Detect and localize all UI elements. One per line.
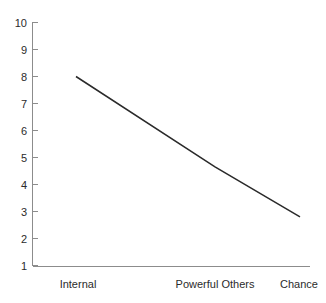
y-tick-label: 10 xyxy=(15,17,27,29)
x-tick-label-internal: Internal xyxy=(60,278,97,290)
y-tick-label: 1 xyxy=(21,260,27,272)
y-tick-label: 9 xyxy=(21,44,27,56)
y-tick-label: 6 xyxy=(21,125,27,137)
y-tick-label: 5 xyxy=(21,152,27,164)
y-tick-label: 2 xyxy=(21,233,27,245)
chart-canvas: 10 9 8 7 6 5 4 3 2 1 Internal Powerful O… xyxy=(0,0,326,303)
y-tick-label: 7 xyxy=(21,98,27,110)
y-tick-label: 8 xyxy=(21,71,27,83)
x-tick-label-powerful-others: Powerful Others xyxy=(176,278,255,290)
chart-background xyxy=(0,0,326,303)
y-tick-label: 4 xyxy=(21,179,27,191)
x-tick-label-chance: Chance xyxy=(280,278,318,290)
y-tick-label: 3 xyxy=(21,206,27,218)
line-chart: 10 9 8 7 6 5 4 3 2 1 Internal Powerful O… xyxy=(0,0,326,303)
